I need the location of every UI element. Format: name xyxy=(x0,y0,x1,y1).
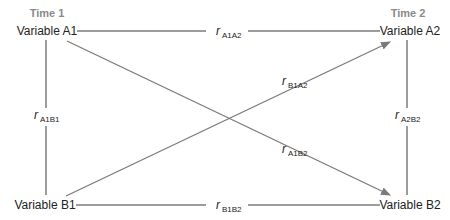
time-1-label: Time 1 xyxy=(30,7,65,19)
label-r-a1a2: rA1A2 xyxy=(216,24,242,40)
node-variable-a1: Variable A1 xyxy=(17,24,78,38)
cross-lagged-diagram: Time 1 Time 2 Variable A1 Variable A2 Va… xyxy=(0,0,450,220)
label-r-b1b2: rB1B2 xyxy=(216,198,242,214)
node-variable-b1: Variable B1 xyxy=(14,198,75,212)
label-r-b1a2: rB1A2 xyxy=(282,74,308,90)
label-r-a2b2: rA2B2 xyxy=(395,108,421,124)
time-2-label: Time 2 xyxy=(391,7,426,19)
node-variable-a2: Variable A2 xyxy=(380,24,441,38)
label-r-a1b2: rA1B2 xyxy=(282,142,308,158)
path-b1a2-arrow xyxy=(66,42,390,196)
node-variable-b2: Variable B2 xyxy=(379,198,440,212)
label-r-a1b1: rA1B1 xyxy=(34,108,60,124)
